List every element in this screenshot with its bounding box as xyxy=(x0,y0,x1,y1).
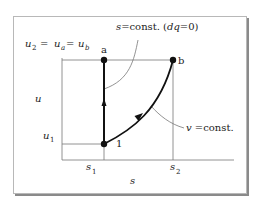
s-axis-label: s xyxy=(130,175,135,186)
u2-label: u xyxy=(25,38,31,49)
point-1 xyxy=(101,141,107,147)
s2-label: s xyxy=(170,161,175,172)
s-const-annotation: s=const. (dq=0) xyxy=(116,21,199,32)
arrow-1-to-a xyxy=(102,98,107,106)
v-const-leader xyxy=(151,106,184,128)
ub-subscript: b xyxy=(85,44,90,52)
v-const-rest: =const. xyxy=(192,122,234,133)
s-const-end: =0) xyxy=(180,21,199,32)
point-1-label: 1 xyxy=(116,138,122,149)
point-a xyxy=(101,57,107,63)
point-b xyxy=(170,57,176,63)
point-b-label: b xyxy=(178,55,184,66)
u2-subscript: 2 xyxy=(32,44,36,52)
s-const-rest: =const. ( xyxy=(121,21,167,32)
v-const-annotation: v =const. xyxy=(186,122,234,133)
point-a-label: a xyxy=(101,44,107,55)
u-s-diagram: a b 1 u 2 = u a = u b u u 1 s 1 s 2 s s=… xyxy=(0,0,258,207)
u1-label: u xyxy=(43,130,49,141)
ub-label: u xyxy=(78,38,84,49)
equals-1: = xyxy=(40,38,48,49)
equals-2: = xyxy=(66,38,74,49)
u-axis-label: u xyxy=(35,93,41,104)
s1-label: s xyxy=(86,161,91,172)
s2-subscript: 2 xyxy=(176,168,180,176)
s-const-dq: dq xyxy=(167,21,180,32)
s-const-leader xyxy=(104,40,138,89)
ua-label: u xyxy=(54,38,60,49)
u1-subscript: 1 xyxy=(50,136,54,144)
path-1-to-b xyxy=(104,60,173,144)
ua-subscript: a xyxy=(61,44,65,52)
s1-subscript: 1 xyxy=(92,168,96,176)
